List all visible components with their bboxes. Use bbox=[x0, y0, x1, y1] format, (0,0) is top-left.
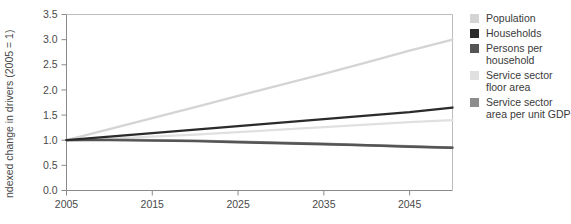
y-tick-label: 2.0 bbox=[43, 84, 58, 96]
y-tick-label: 0.5 bbox=[43, 159, 58, 171]
legend-swatch-icon bbox=[470, 71, 479, 80]
y-axis-ticks: 0.00.51.01.52.02.53.03.5 bbox=[43, 8, 67, 196]
y-tick-label: 1.0 bbox=[43, 134, 58, 146]
legend-swatch-icon bbox=[470, 98, 479, 107]
data-series-lines bbox=[67, 40, 453, 148]
y-axis-title-group: ndexed change in drivers (2005 = 1) bbox=[3, 30, 15, 198]
legend-item[interactable]: Households bbox=[470, 27, 571, 39]
x-tick-label: 2025 bbox=[226, 198, 250, 210]
x-tick-label: 2045 bbox=[398, 198, 422, 210]
y-tick-label: 0.0 bbox=[43, 184, 58, 196]
x-tick-label: 2015 bbox=[141, 198, 165, 210]
x-tick-label: 2035 bbox=[312, 198, 336, 210]
legend-item-label: Service sector floor area bbox=[486, 69, 571, 93]
y-axis-title: ndexed change in drivers (2005 = 1) bbox=[3, 30, 15, 198]
legend-item-label: Households bbox=[486, 27, 541, 39]
y-tick-label: 1.5 bbox=[43, 109, 58, 121]
legend-swatch-icon bbox=[470, 29, 479, 38]
x-tick-label: 2005 bbox=[55, 198, 79, 210]
legend-item[interactable]: Persons per household bbox=[470, 42, 571, 66]
legend-item[interactable]: Service sector area per unit GDP bbox=[470, 96, 571, 120]
legend-swatch-icon bbox=[470, 14, 479, 23]
y-tick-label: 2.5 bbox=[43, 58, 58, 70]
legend-item-label: Service sector area per unit GDP bbox=[486, 96, 571, 120]
legend-item[interactable]: Service sector floor area bbox=[470, 69, 571, 93]
plot-frame bbox=[67, 15, 453, 191]
y-tick-label: 3.5 bbox=[43, 8, 58, 20]
chart-figure: ndexed change in drivers (2005 = 1) 0.00… bbox=[0, 0, 571, 224]
series-line-service-sector-floor-area bbox=[67, 120, 453, 140]
legend-item-label: Population bbox=[486, 12, 536, 24]
y-tick-label: 3.0 bbox=[43, 33, 58, 45]
legend-item-label: Persons per household bbox=[486, 42, 571, 66]
legend-item[interactable]: Population bbox=[470, 12, 571, 24]
chart-legend: PopulationHouseholdsPersons per househol… bbox=[470, 12, 571, 123]
x-axis-ticks: 20052015202520352045 bbox=[55, 191, 422, 210]
legend-swatch-icon bbox=[470, 44, 479, 53]
